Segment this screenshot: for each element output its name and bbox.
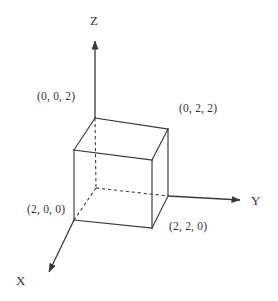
edge-top-right-diagonal [152,129,168,160]
axis-label-x: X [16,274,25,287]
edge-bottom-right-diagonal [152,196,168,228]
edge-bottom-front [74,220,152,228]
axis-label-y: Y [251,194,260,207]
vertex-label-0-0-2: (0, 0, 2) [37,91,75,103]
y-axis-line [168,196,240,200]
x-axis-line [49,220,74,272]
edge-top-front [74,150,152,160]
cube-coordinate-figure: (0, 0, 2) (0, 2, 2) (2, 0, 0) (2, 2, 0) … [0,0,278,301]
vertex-label-2-2-0: (2, 2, 0) [169,221,207,233]
axis-group [49,41,240,272]
vertex-label-2-0-0: (2, 0, 0) [27,204,65,216]
edge-top-left-diagonal [74,118,95,150]
cube-visible-edges [74,118,168,228]
axis-label-z: Z [90,14,98,27]
edge-top-back [95,118,168,129]
cube-hidden-edges [74,118,168,220]
cube-diagram-svg [0,0,278,301]
hidden-edge-back-to-front-left-bottom [74,188,96,220]
hidden-edge-back-bottom-horizontal [96,188,168,196]
vertex-label-0-2-2: (0, 2, 2) [179,103,217,115]
